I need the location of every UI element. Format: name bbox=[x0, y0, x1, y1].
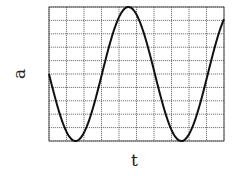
chart-plot bbox=[0, 0, 233, 176]
y-axis-label: a bbox=[9, 69, 29, 79]
x-axis-label: t bbox=[131, 150, 138, 170]
grid-lines bbox=[49, 7, 224, 141]
